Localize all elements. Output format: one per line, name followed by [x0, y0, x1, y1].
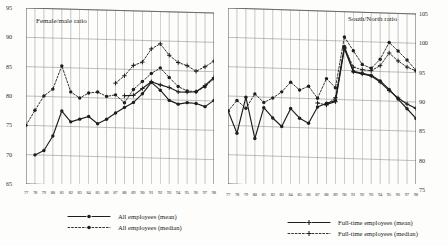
plot-area-right: [228, 8, 416, 184]
x-tick-label: 80: [48, 190, 57, 195]
x-tick-label: 93: [165, 190, 174, 195]
x-tick-label: 79: [39, 190, 48, 195]
legend-label: All employees (median): [112, 224, 182, 231]
x-tick-label: 85: [295, 192, 304, 197]
x-tick-label: 81: [259, 192, 268, 197]
x-tick-label: 87: [313, 192, 322, 197]
x-tick-label: 94: [375, 192, 384, 197]
x-tick-label: 77: [224, 192, 233, 197]
plot-area-left: [26, 8, 214, 184]
y-tick-label: 85: [419, 127, 425, 134]
x-tick-label: 90: [340, 192, 349, 197]
x-tick-label: 91: [349, 192, 358, 197]
x-tick-label: 96: [191, 190, 200, 195]
y-tick-label: 85: [6, 63, 12, 70]
x-axis-labels-right: 7778798081828384858687888990919293949596…: [224, 192, 421, 197]
x-tick-label: 92: [358, 192, 367, 197]
chart-legend: All employees (mean)All employees (media…: [0, 205, 448, 246]
x-tick-label: 89: [129, 190, 138, 195]
x-tick-label: 77: [22, 190, 31, 195]
x-tick-label: 84: [286, 192, 295, 197]
x-tick-label: 88: [322, 192, 331, 197]
x-tick-label: 91: [147, 190, 156, 195]
x-tick-label: 83: [277, 192, 286, 197]
y-tick-label: 80: [6, 92, 12, 99]
x-tick-label: 98: [411, 192, 420, 197]
all-employees-legend-item: All employees (median): [66, 222, 182, 233]
x-tick-label: 82: [268, 192, 277, 197]
x-axis-labels-left: 7778798081828384858687888990919293949596…: [22, 190, 219, 195]
x-tick-label: 93: [367, 192, 376, 197]
y-tick-label: 65: [6, 180, 12, 187]
y-tick-label: 95: [419, 69, 425, 76]
legend-label: All employees (mean): [112, 213, 177, 220]
panel-female-male-ratio: Female/male ratio 65707580859095 7778798…: [0, 0, 224, 205]
x-tick-label: 89: [331, 192, 340, 197]
x-tick-label: 90: [138, 190, 147, 195]
legend-symbol-plus-dashed-icon: [286, 228, 332, 239]
y-tick-label: 105: [419, 10, 428, 17]
x-tick-label: 83: [75, 190, 84, 195]
x-tick-label: 88: [120, 190, 129, 195]
legend-symbol-plus-solid-icon: [286, 217, 332, 228]
legend-label: Full-time employees (median): [332, 230, 418, 237]
y-tick-label: 90: [6, 33, 12, 40]
full-time-employees-legend-item: Full-time employees (median): [286, 228, 418, 239]
x-tick-label: 97: [402, 192, 411, 197]
x-tick-label: 82: [66, 190, 75, 195]
x-tick-label: 86: [304, 192, 313, 197]
all-employees-legend-item: All employees (mean): [66, 211, 182, 222]
x-tick-label: 95: [182, 190, 191, 195]
x-tick-label: 78: [232, 192, 241, 197]
x-tick-label: 79: [241, 192, 250, 197]
y-tick-label: 95: [6, 4, 12, 11]
x-tick-label: 95: [384, 192, 393, 197]
y-tick-label: 100: [419, 39, 428, 46]
x-tick-label: 96: [393, 192, 402, 197]
chart-figure: Female/male ratio 65707580859095 7778798…: [0, 0, 448, 246]
x-tick-label: 97: [200, 190, 209, 195]
x-tick-label: 92: [156, 190, 165, 195]
x-tick-label: 85: [93, 190, 102, 195]
legend-symbol-filled-circle-dashed-icon: [66, 222, 112, 233]
y-tick-label: 80: [419, 157, 425, 164]
legend-group-full-time-employees: Full-time employees (mean)Full-time empl…: [286, 217, 418, 239]
x-tick-label: 94: [173, 190, 182, 195]
x-tick-label: 98: [209, 190, 218, 195]
x-tick-label: 80: [250, 192, 259, 197]
legend-label: Full-time employees (mean): [332, 219, 413, 226]
x-tick-label: 86: [102, 190, 111, 195]
panel-south-north-ratio: South/North ratio 7580859095100105 77787…: [224, 0, 448, 205]
x-tick-label: 87: [111, 190, 120, 195]
y-tick-label: 75: [6, 121, 12, 128]
y-tick-label: 90: [419, 98, 425, 105]
x-tick-label: 81: [57, 190, 66, 195]
legend-group-all-employees: All employees (mean)All employees (media…: [66, 211, 182, 233]
y-tick-label: 70: [6, 151, 12, 158]
full-time-employees-legend-item: Full-time employees (mean): [286, 217, 418, 228]
x-tick-label: 78: [30, 190, 39, 195]
x-tick-label: 84: [84, 190, 93, 195]
legend-symbol-filled-circle-solid-icon: [66, 211, 112, 222]
